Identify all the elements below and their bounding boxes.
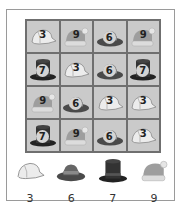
baseball-cap-icon: 3 xyxy=(62,58,90,82)
grid-cell[interactable]: 3 xyxy=(127,119,161,152)
baseball-cap-icon: 3 xyxy=(129,91,157,115)
top-hat-icon xyxy=(96,158,130,188)
beanie-hat-icon xyxy=(137,158,171,188)
legend-item: 6 xyxy=(53,158,89,205)
cell-value: 3 xyxy=(62,62,90,73)
legend-item: 3 xyxy=(12,158,48,205)
hat-legend: 3 6 7 9 xyxy=(12,158,172,205)
legend-value: 3 xyxy=(27,192,34,205)
cell-value: 3 xyxy=(96,95,124,106)
grid-cell[interactable]: 6 xyxy=(93,119,127,152)
cell-value: 9 xyxy=(29,95,57,106)
cell-value: 9 xyxy=(62,29,90,40)
cell-value: 6 xyxy=(69,97,82,110)
beanie-hat-icon: 9 xyxy=(62,124,90,148)
fedora-hat-icon: 6 xyxy=(96,58,124,82)
grid-cell[interactable]: 6 xyxy=(93,53,127,86)
fedora-hat-icon: 6 xyxy=(62,91,90,115)
cell-value: 9 xyxy=(129,29,157,40)
grid-cell[interactable]: 6 xyxy=(60,86,94,119)
grid-cell[interactable]: 7 xyxy=(26,53,60,86)
cell-value: 3 xyxy=(29,29,57,40)
cell-value: 9 xyxy=(62,128,90,139)
grid-cell[interactable]: 7 xyxy=(26,119,60,152)
grid-cell[interactable]: 3 xyxy=(127,86,161,119)
cell-value: 3 xyxy=(129,128,157,139)
cell-value: 7 xyxy=(36,130,49,143)
top-hat-icon: 7 xyxy=(29,58,57,82)
cell-value: 6 xyxy=(103,64,116,77)
legend-value: 7 xyxy=(109,192,116,205)
grid-cell[interactable]: 9 xyxy=(26,86,60,119)
top-hat-icon: 7 xyxy=(129,58,157,82)
grid-cell[interactable]: 7 xyxy=(127,53,161,86)
baseball-cap-icon: 3 xyxy=(29,25,57,49)
grid-cell[interactable]: 6 xyxy=(93,20,127,53)
baseball-cap-icon: 3 xyxy=(96,91,124,115)
cell-value: 6 xyxy=(103,31,116,44)
beanie-hat-icon: 9 xyxy=(129,25,157,49)
legend-item: 7 xyxy=(95,158,131,205)
top-hat-icon: 7 xyxy=(29,124,57,148)
grid-cell[interactable]: 3 xyxy=(93,86,127,119)
cell-value: 6 xyxy=(103,130,116,143)
grid-cell[interactable]: 3 xyxy=(26,20,60,53)
grid-cell[interactable]: 9 xyxy=(60,20,94,53)
grid-cell[interactable]: 3 xyxy=(60,53,94,86)
baseball-cap-icon: 3 xyxy=(129,124,157,148)
legend-value: 9 xyxy=(150,192,157,205)
fedora-hat-icon: 6 xyxy=(96,124,124,148)
cell-value: 7 xyxy=(136,64,149,77)
fedora-hat-icon xyxy=(54,158,88,188)
legend-item: 9 xyxy=(136,158,172,205)
grid-cell[interactable]: 9 xyxy=(60,119,94,152)
baseball-cap-icon xyxy=(13,158,47,188)
cell-value: 3 xyxy=(129,95,157,106)
cell-value: 7 xyxy=(36,64,49,77)
legend-value: 6 xyxy=(68,192,75,205)
hat-grid: 3 9 6 9 7 3 6 7 9 6 3 3 7 9 6 3 xyxy=(25,19,161,153)
beanie-hat-icon: 9 xyxy=(62,25,90,49)
fedora-hat-icon: 6 xyxy=(96,25,124,49)
grid-cell[interactable]: 9 xyxy=(127,20,161,53)
beanie-hat-icon: 9 xyxy=(29,91,57,115)
